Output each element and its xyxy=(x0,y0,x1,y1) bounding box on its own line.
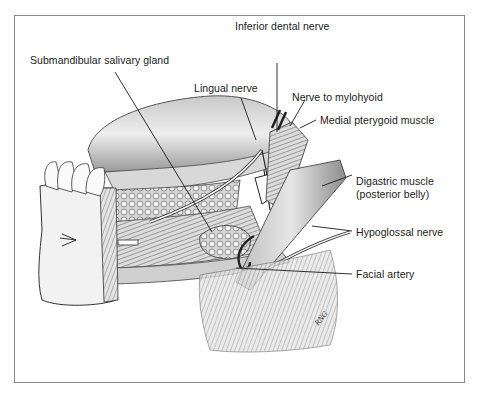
label-digastric-posterior-belly: (posterior belly) xyxy=(356,188,429,200)
label-hypoglossal-nerve: Hypoglossal nerve xyxy=(356,226,443,238)
submandibular-gland xyxy=(200,226,251,259)
label-nerve-to-mylohyoid: Nerve to mylohyoid xyxy=(292,91,383,103)
label-medial-pterygoid-muscle: Medial pterygoid muscle xyxy=(320,114,434,126)
label-lingual-nerve: Lingual nerve xyxy=(194,82,258,94)
label-digastric-muscle: Digastric muscle xyxy=(356,175,434,187)
label-inferior-dental-nerve: Inferior dental nerve xyxy=(235,20,329,32)
label-submandibular-salivary-gland: Submandibular salivary gland xyxy=(30,54,169,66)
label-facial-artery: Facial artery xyxy=(356,268,414,280)
